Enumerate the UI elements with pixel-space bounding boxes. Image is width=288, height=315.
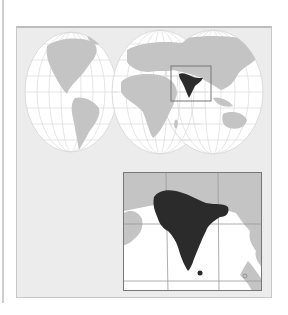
left-margin-rule [2, 0, 4, 303]
locator-map-panel [16, 26, 272, 298]
inset-map [123, 172, 262, 291]
inset-arabia [124, 211, 143, 245]
sri-lanka [198, 271, 203, 276]
inset-map-svg [124, 173, 262, 291]
